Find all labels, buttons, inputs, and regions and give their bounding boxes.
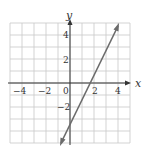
x-axis-label: x <box>135 77 142 90</box>
x-tick-label: −4 <box>13 86 27 96</box>
line-arrow-top-icon <box>114 23 120 32</box>
y-tick-label: 2 <box>63 55 69 65</box>
data-line <box>60 23 119 146</box>
x-tick-label: 0 <box>63 86 69 96</box>
y-axis-label: y <box>65 9 73 22</box>
y-tick-label: 4 <box>63 30 69 40</box>
y-tick-label: −2 <box>57 102 70 112</box>
line-arrow-bottom-icon <box>60 138 66 147</box>
x-tick-label: 2 <box>92 86 98 96</box>
x-tick-label: 4 <box>115 86 121 96</box>
x-tick-labels: −4 −2 0 2 4 <box>13 86 121 96</box>
x-tick-label: −2 <box>38 86 51 96</box>
coordinate-plane: x y −4 −2 0 2 4 4 2 −2 <box>0 0 151 147</box>
